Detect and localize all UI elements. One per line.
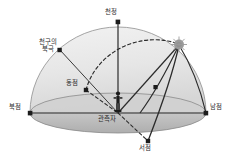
north-point-marker-icon [28,111,33,116]
sun-star-icon [171,37,187,53]
ground-plane-front [30,113,206,133]
diagram-canvas [0,0,236,160]
diurnal-path-marker-icon [153,85,157,89]
label-north-point: 북점 [9,104,21,111]
label-zenith: 천정 [105,9,117,16]
zenith-marker-icon [116,20,121,25]
label-east-point: 동점 [66,80,78,87]
label-south-point: 남점 [210,104,222,111]
celestial-sphere-figure: 천정 천구의 북극 동점 북점 남점 관측자 서점 [0,0,236,160]
west-point-marker-icon [146,139,150,143]
east-point-marker-icon [84,88,88,92]
label-west-point: 서점 [139,145,151,152]
label-north-celestial-pole-line2: 북극 [33,46,63,53]
south-point-marker-icon [204,111,209,116]
label-observer: 관측자 [98,116,116,123]
